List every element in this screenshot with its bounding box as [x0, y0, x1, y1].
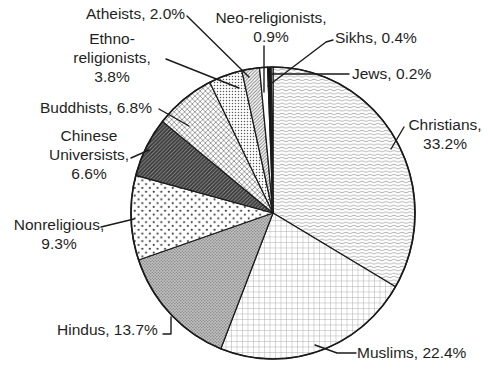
label-ethno-line3: 3.8%	[56, 67, 168, 86]
label-christians: Christians, 33.2%	[403, 115, 487, 153]
label-buddhists-text: Buddhists, 6.8%	[40, 98, 152, 117]
label-nonreligious: Nonreligious, 9.3%	[8, 215, 110, 253]
label-neo-religionists: Neo-religionists, 0.9%	[209, 8, 333, 46]
pie-slices	[131, 67, 415, 359]
label-ethno-religionists: Ethno- religionists, 3.8%	[56, 29, 168, 86]
label-sikhs-text: Sikhs, 0.4%	[335, 28, 417, 47]
label-chinese-line3: 6.6%	[34, 164, 144, 183]
label-ethno-line2: religionists,	[56, 48, 168, 67]
label-ethno-line1: Ethno-	[56, 29, 168, 48]
label-chinese-line1: Chinese	[34, 126, 144, 145]
label-christians-line1: Christians,	[403, 115, 487, 134]
leader-line-ethno	[166, 59, 239, 88]
label-chinese-line2: Universists,	[34, 145, 144, 164]
label-atheists-text: Atheists, 2.0%	[86, 4, 185, 23]
label-hindus: Hindus, 13.7%	[57, 320, 158, 339]
label-jews-text: Jews, 0.2%	[352, 64, 431, 83]
label-christians-line2: 33.2%	[403, 134, 487, 153]
label-jews: Jews, 0.2%	[352, 64, 431, 83]
label-buddhists: Buddhists, 6.8%	[40, 98, 152, 117]
label-sikhs: Sikhs, 0.4%	[335, 28, 417, 47]
label-muslims-text: Muslims, 22.4%	[357, 343, 466, 362]
label-muslims: Muslims, 22.4%	[357, 343, 466, 362]
label-neo-line1: Neo-religionists,	[209, 8, 333, 27]
label-atheists: Atheists, 2.0%	[86, 4, 185, 23]
label-neo-line2: 0.9%	[209, 27, 333, 46]
label-nonreligious-line2: 9.3%	[8, 234, 110, 253]
label-chinese-universists: Chinese Universists, 6.6%	[34, 126, 144, 183]
pie-chart-figure: Atheists, 2.0% Neo-religionists, 0.9% Si…	[0, 0, 488, 369]
label-nonreligious-line1: Nonreligious,	[8, 215, 110, 234]
label-hindus-text: Hindus, 13.7%	[57, 320, 158, 339]
leader-line-hindus	[163, 317, 171, 334]
